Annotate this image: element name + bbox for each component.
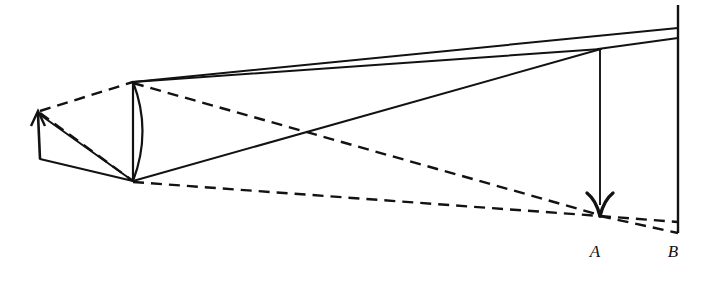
optical-ray-diagram-figure: A B <box>0 0 708 281</box>
converging-lens <box>133 82 143 181</box>
label-point-b: B <box>668 242 679 261</box>
dashed-ray-image-a-to-screen-upper <box>600 216 678 222</box>
dashed-ray-object-tip-to-lens-top <box>40 82 133 111</box>
dashed-ray-group <box>40 82 678 233</box>
ray-diagram-canvas: A B <box>0 0 708 281</box>
ray-image-point-to-screen <box>598 38 678 49</box>
dashed-ray-lens-top-to-image-a <box>133 83 600 215</box>
ray-lens-bottom-to-image-point <box>133 49 601 181</box>
object-arrow-shaft <box>38 114 40 159</box>
image-arrow <box>587 50 613 216</box>
lens-curved-surface <box>133 82 143 181</box>
dashed-ray-lens-bottom-to-image-a <box>133 182 600 216</box>
ray-lens-top-to-image-point <box>133 49 601 82</box>
solid-ray-group <box>39 28 678 181</box>
object-arrow <box>31 111 45 159</box>
label-point-a: A <box>589 242 601 261</box>
ray-object-tip-to-lens-bottom <box>39 114 133 181</box>
ray-lens-top-to-screen-top <box>133 28 678 82</box>
image-arrow-head-right <box>600 193 613 216</box>
